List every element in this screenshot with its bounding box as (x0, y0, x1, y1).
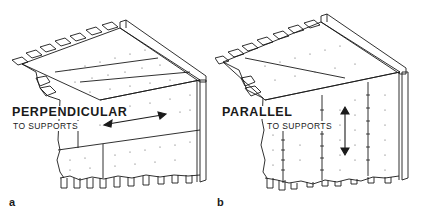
sub-label: TO SUPPORTS (266, 121, 333, 131)
orientation-label: PERPENDICULAR (11, 106, 128, 119)
panel-letter: a (9, 196, 15, 208)
panel-b-parallel: PARALLEL TO SUPPORTS b (215, 0, 430, 218)
orientation-label: PARALLEL (221, 106, 294, 119)
vertical-double-arrow-icon (341, 107, 349, 155)
panel-a-perpendicular: PERPENDICULAR TO SUPPORTS a (0, 0, 215, 218)
sub-label: TO SUPPORTS (12, 121, 79, 131)
panel-letter: b (217, 196, 224, 208)
